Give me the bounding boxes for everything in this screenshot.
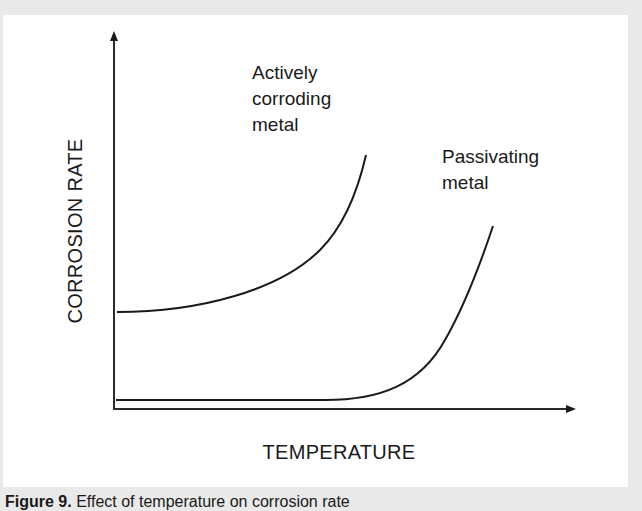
x-axis-label: TEMPERATURE — [263, 441, 416, 464]
label-line: Passivating — [442, 144, 539, 170]
label-line: metal — [442, 170, 539, 196]
y-axis-arrow-icon — [110, 31, 118, 41]
label-line: metal — [252, 112, 331, 138]
label-actively-corroding: Actively corroding metal — [252, 60, 331, 138]
y-axis-label: CORROSION RATE — [64, 139, 87, 324]
x-axis-arrow-icon — [566, 405, 576, 413]
curve-actively-corroding — [117, 155, 366, 312]
label-line: corroding — [252, 86, 331, 112]
curve-passivating — [116, 226, 493, 400]
label-line: Actively — [252, 60, 331, 86]
caption-label: Figure 9. — [5, 493, 72, 510]
figure-caption: Figure 9. Effect of temperature on corro… — [5, 493, 350, 511]
label-passivating: Passivating metal — [442, 144, 539, 196]
caption-text: Effect of temperature on corrosion rate — [72, 493, 350, 510]
